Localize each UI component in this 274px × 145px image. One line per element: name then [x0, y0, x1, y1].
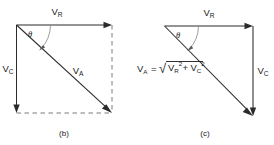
panel-c-theta-arc — [189, 26, 198, 49]
panel-c-caption: (c) — [200, 129, 210, 138]
panel-c-vector-vr: VR — [165, 7, 254, 29]
panel-c-theta-arrowhead — [187, 46, 193, 52]
panel-c-vr-arrowhead — [245, 23, 254, 29]
formula-equals: = — [151, 63, 157, 74]
phasor-diagram-canvas: VR VC VA θ — [0, 0, 274, 145]
panel-b-theta-label: θ — [28, 29, 32, 39]
panel-c-vector-vc: VC — [250, 26, 269, 116]
formula-lhs: VA — [137, 63, 148, 75]
panel-b-theta-arrowhead — [39, 45, 45, 51]
panel-c-vr-label: VR — [203, 7, 214, 19]
panel-c-vc-label: VC — [257, 65, 268, 77]
formula-term1: VR2 — [168, 60, 183, 75]
panel-c: VR VC θ VA — [137, 7, 269, 138]
panel-c-theta-label: θ — [176, 30, 180, 40]
panel-b-vc-arrowhead — [13, 105, 19, 114]
panel-b-va-label: VA — [73, 65, 84, 77]
panel-c-theta-angle: θ — [176, 26, 199, 51]
panel-b-vc-label: VC — [2, 63, 13, 75]
panel-b-theta-angle: θ — [28, 25, 51, 50]
panel-c-formula: VA = √ VR2 + VC2 — [137, 60, 205, 76]
panel-b-vr-arrowhead — [104, 22, 113, 28]
panel-b-vector-vr: VR — [17, 6, 113, 28]
panel-b-va-arrowhead — [102, 104, 112, 113]
panel-b: VR VC VA θ — [2, 6, 112, 138]
phasor-figure: VR VC VA θ — [0, 0, 274, 145]
formula-term2: VC2 — [191, 60, 206, 75]
panel-b-theta-arc — [41, 25, 51, 49]
panel-b-vector-vc: VC — [2, 25, 19, 113]
panel-b-caption: (b) — [59, 129, 69, 138]
formula-radical-symbol: √ — [159, 61, 167, 76]
panel-b-vr-label: VR — [51, 6, 62, 18]
formula-plus: + — [183, 62, 189, 73]
